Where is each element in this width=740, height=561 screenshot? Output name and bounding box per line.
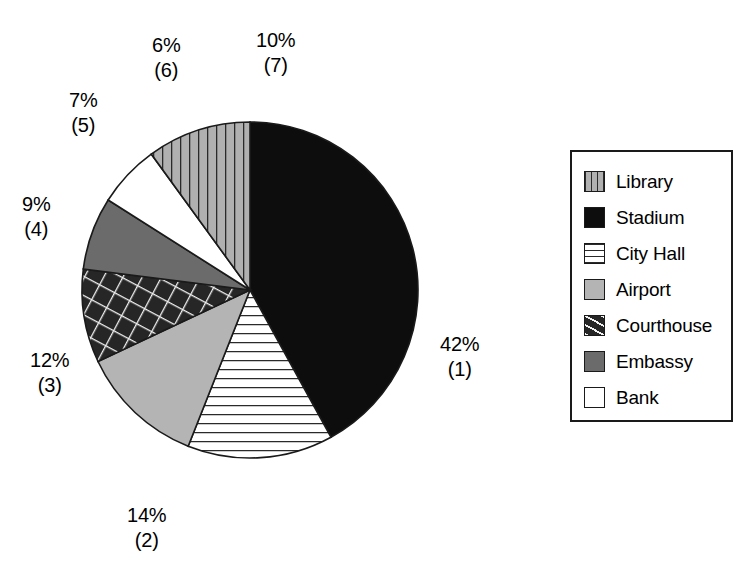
pie-label-rank: (2) bbox=[127, 528, 166, 553]
legend-swatch-stadium bbox=[584, 207, 605, 228]
pie-label-city-hall: 14%(2) bbox=[127, 503, 166, 553]
chart-legend: LibraryStadiumCity HallAirportCourthouse… bbox=[570, 150, 733, 422]
legend-swatch-embassy bbox=[584, 351, 605, 372]
legend-swatch-courthouse bbox=[584, 315, 605, 336]
pie-label-stadium: 42%(1) bbox=[440, 332, 479, 382]
pie-slice-group bbox=[82, 122, 418, 458]
pie-label-rank: (1) bbox=[440, 357, 479, 382]
pie-label-percent: 6% bbox=[152, 33, 181, 58]
legend-label: Library bbox=[616, 171, 673, 192]
pie-label-rank: (7) bbox=[256, 53, 295, 78]
legend-label: City Hall bbox=[616, 243, 685, 264]
legend-item-stadium[interactable]: Stadium bbox=[584, 199, 734, 235]
pie-label-percent: 14% bbox=[127, 503, 166, 528]
pie-label-percent: 42% bbox=[440, 332, 479, 357]
pie-label-percent: 12% bbox=[30, 348, 69, 373]
legend-item-airport[interactable]: Airport bbox=[584, 271, 734, 307]
legend-label: Airport bbox=[616, 279, 671, 300]
legend-item-bank[interactable]: Bank bbox=[584, 379, 734, 415]
legend-swatch-airport bbox=[584, 279, 605, 300]
pie-label-airport: 12%(3) bbox=[30, 348, 69, 398]
pie-label-courthouse: 9%(4) bbox=[22, 192, 51, 242]
legend-item-courthouse[interactable]: Courthouse bbox=[584, 307, 734, 343]
pie-label-percent: 10% bbox=[256, 28, 295, 53]
pie-chart-figure: 42%(1)14%(2)12%(3)9%(4)7%(5)6%(6)10%(7) … bbox=[0, 0, 740, 561]
pie-label-rank: (6) bbox=[152, 58, 181, 83]
legend-swatch-library bbox=[584, 171, 605, 192]
legend-label: Courthouse bbox=[616, 315, 712, 336]
pie-label-bank: 6%(6) bbox=[152, 33, 181, 83]
pie-label-embassy: 7%(5) bbox=[69, 88, 98, 138]
legend-swatch-bank bbox=[584, 387, 605, 408]
legend-label: Embassy bbox=[616, 351, 693, 372]
legend-label: Bank bbox=[616, 387, 659, 408]
pie-label-percent: 7% bbox=[69, 88, 98, 113]
pie-label-library: 10%(7) bbox=[256, 28, 295, 78]
legend-item-city-hall[interactable]: City Hall bbox=[584, 235, 734, 271]
pie-label-rank: (3) bbox=[30, 373, 69, 398]
pie-label-rank: (5) bbox=[69, 113, 98, 138]
legend-label: Stadium bbox=[616, 207, 684, 228]
pie-label-percent: 9% bbox=[22, 192, 51, 217]
legend-item-library[interactable]: Library bbox=[584, 163, 734, 199]
legend-item-embassy[interactable]: Embassy bbox=[584, 343, 734, 379]
legend-swatch-city-hall bbox=[584, 243, 605, 264]
legend-item-list: LibraryStadiumCity HallAirportCourthouse… bbox=[584, 163, 734, 415]
pie-label-rank: (4) bbox=[22, 217, 51, 242]
